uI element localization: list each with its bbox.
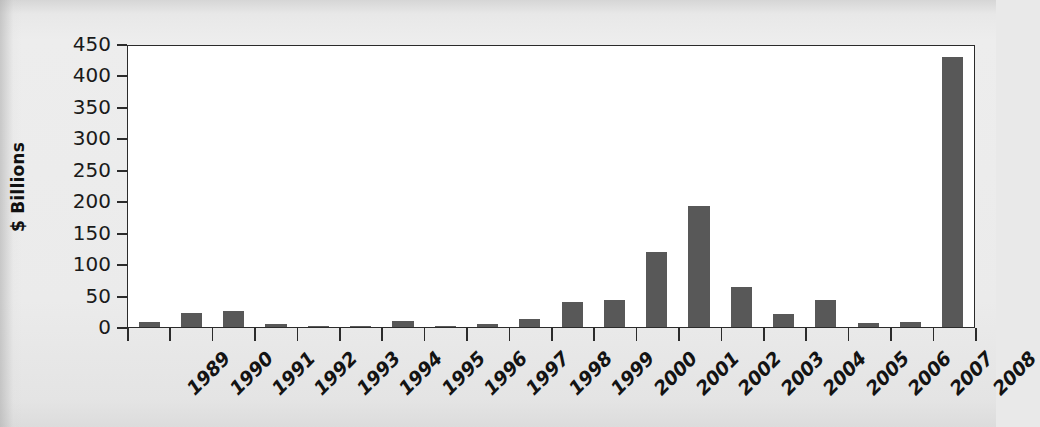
x-tick-mark: [678, 328, 680, 341]
y-tick-label: 200: [55, 191, 111, 211]
y-tick-mark: [117, 264, 127, 266]
x-tick-label: 1996: [479, 347, 531, 399]
bar-2008: [942, 57, 963, 327]
x-tick-mark: [890, 328, 892, 341]
x-tick-label: 2006: [903, 347, 955, 399]
bar-slot: [466, 46, 508, 327]
bar-slot: [805, 46, 847, 327]
bar-series: [128, 46, 974, 327]
x-tick-label: 1998: [564, 347, 616, 399]
x-axis-tick-labels: 1989199019911992199319941995199619971998…: [127, 341, 975, 427]
x-tick-label: 1992: [310, 347, 362, 399]
x-tick-label: 1994: [394, 347, 446, 399]
bar-1992: [265, 324, 286, 327]
x-tick-mark: [763, 328, 765, 341]
x-tick-label: 1999: [606, 347, 658, 399]
bar-slot: [762, 46, 804, 327]
x-tick-mark: [975, 328, 977, 341]
x-tick-label: 2008: [988, 347, 1040, 399]
bar-1996: [435, 326, 456, 327]
bar-2001: [646, 252, 667, 327]
bar-1990: [181, 313, 202, 327]
y-axis-tick-labels: 050100150200250300350400450: [55, 0, 111, 427]
bar-slot: [339, 46, 381, 327]
bar-slot: [213, 46, 255, 327]
bar-slot: [509, 46, 551, 327]
x-tick-mark: [636, 328, 638, 341]
bar-slot: [424, 46, 466, 327]
bar-slot: [551, 46, 593, 327]
x-tick-mark: [169, 328, 171, 341]
bar-1999: [562, 302, 583, 327]
x-tick-mark: [933, 328, 935, 341]
x-tick-label: 2003: [776, 347, 828, 399]
x-tick-label: 1995: [437, 347, 489, 399]
bar-2006: [858, 323, 879, 327]
x-tick-mark: [466, 328, 468, 341]
y-tick-mark: [117, 233, 127, 235]
x-tick-mark: [212, 328, 214, 341]
y-tick-label: 300: [55, 128, 111, 148]
x-tick-mark: [381, 328, 383, 341]
y-tick-mark: [117, 44, 127, 46]
bar-2003: [731, 287, 752, 327]
y-tick-mark: [117, 296, 127, 298]
x-axis-tick-marks: [127, 328, 975, 341]
x-tick-mark: [297, 328, 299, 341]
plot-area: [127, 45, 975, 328]
bar-slot: [889, 46, 931, 327]
x-tick-label: 2007: [946, 347, 998, 399]
bar-slot: [297, 46, 339, 327]
x-tick-label: 2001: [691, 347, 743, 399]
y-tick-label: 150: [55, 223, 111, 243]
y-tick-label: 250: [55, 160, 111, 180]
y-tick-mark: [117, 170, 127, 172]
y-tick-label: 400: [55, 65, 111, 85]
y-tick-label: 450: [55, 34, 111, 54]
bar-1994: [350, 326, 371, 327]
x-tick-mark: [551, 328, 553, 341]
bar-slot: [128, 46, 170, 327]
y-tick-mark: [117, 138, 127, 140]
bar-slot: [255, 46, 297, 327]
x-tick-mark: [424, 328, 426, 341]
bar-2002: [688, 206, 709, 327]
x-tick-mark: [509, 328, 511, 341]
bar-slot: [382, 46, 424, 327]
bar-1998: [519, 319, 540, 327]
x-tick-mark: [254, 328, 256, 341]
y-tick-mark: [117, 201, 127, 203]
y-axis-title: $ Billions: [8, 122, 28, 252]
y-tick-label: 50: [55, 286, 111, 306]
y-tick-label: 100: [55, 254, 111, 274]
bar-1997: [477, 324, 498, 327]
y-tick-label: 0: [55, 317, 111, 337]
x-tick-label: 2002: [734, 347, 786, 399]
bar-1991: [223, 311, 244, 327]
x-tick-mark: [721, 328, 723, 341]
x-tick-label: 2004: [818, 347, 870, 399]
bar-slot: [932, 46, 974, 327]
bar-slot: [170, 46, 212, 327]
bar-slot: [593, 46, 635, 327]
x-tick-label: 1997: [522, 347, 574, 399]
bar-2004: [773, 314, 794, 327]
x-tick-mark: [339, 328, 341, 341]
x-tick-mark: [848, 328, 850, 341]
x-tick-mark: [593, 328, 595, 341]
x-tick-mark: [805, 328, 807, 341]
bar-2000: [604, 300, 625, 327]
y-tick-mark: [117, 327, 127, 329]
x-tick-label: 1990: [225, 347, 277, 399]
x-tick-label: 1991: [267, 347, 319, 399]
bar-1995: [392, 321, 413, 327]
x-tick-label: 2005: [861, 347, 913, 399]
bar-slot: [678, 46, 720, 327]
bar-1989: [139, 322, 160, 327]
bar-2005: [815, 300, 836, 327]
y-tick-label: 350: [55, 97, 111, 117]
bar-slot: [720, 46, 762, 327]
x-tick-label: 1989: [182, 347, 234, 399]
bar-1993: [308, 326, 329, 327]
